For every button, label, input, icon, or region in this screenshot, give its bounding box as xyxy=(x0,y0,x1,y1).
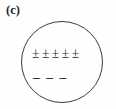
charge-symbol-positive: ± xyxy=(62,47,69,60)
charge-symbol-positive: ± xyxy=(42,47,49,60)
figure-panel-c: (c) ± ± ± ± ± – – – xyxy=(0,0,116,109)
charge-symbol-negative: – xyxy=(33,70,40,83)
charge-symbol-positive: ± xyxy=(32,47,39,60)
panel-label: (c) xyxy=(6,2,20,18)
charge-symbol-positive: ± xyxy=(52,47,59,60)
circle-outline xyxy=(21,21,103,103)
negative-charge-row: – – – xyxy=(33,70,66,83)
positive-charge-row: ± ± ± ± ± xyxy=(32,47,79,60)
charge-symbol-negative: – xyxy=(60,70,67,83)
charge-symbol-positive: ± xyxy=(72,47,79,60)
charge-symbol-negative: – xyxy=(46,70,53,83)
